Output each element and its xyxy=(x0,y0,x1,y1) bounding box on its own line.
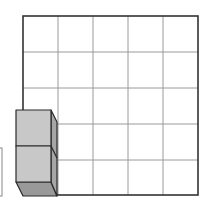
grid-diagram xyxy=(0,0,209,210)
cube-stack xyxy=(16,110,57,196)
cube-front-top xyxy=(16,110,51,146)
partial-frame xyxy=(0,148,2,196)
cube-bottom-face xyxy=(16,182,57,196)
cube-front-bottom xyxy=(16,146,51,182)
